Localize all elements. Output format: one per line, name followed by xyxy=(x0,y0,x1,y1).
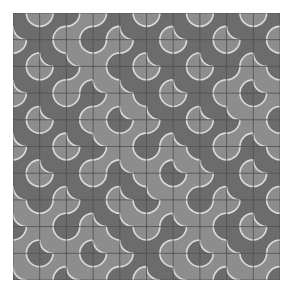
truchet-tile xyxy=(13,173,40,200)
truchet-tile xyxy=(93,173,120,200)
truchet-tile xyxy=(120,147,147,174)
truchet-tile xyxy=(40,66,67,93)
truchet-tile xyxy=(227,173,254,200)
truchet-tile xyxy=(13,147,40,174)
truchet-tile xyxy=(66,93,93,120)
truchet-tile xyxy=(147,227,174,254)
truchet-tile xyxy=(173,227,200,254)
truchet-tile xyxy=(200,120,227,147)
truchet-tile xyxy=(253,253,280,280)
truchet-tile xyxy=(93,147,120,174)
truchet-tile xyxy=(147,253,174,280)
truchet-tile xyxy=(253,227,280,254)
truchet-tile xyxy=(227,147,254,174)
truchet-tile xyxy=(147,147,174,174)
truchet-tile xyxy=(227,200,254,227)
truchet-tile xyxy=(40,40,67,67)
truchet-tile xyxy=(13,40,40,67)
truchet-tile xyxy=(200,227,227,254)
truchet-tile xyxy=(93,93,120,120)
truchet-tile xyxy=(93,227,120,254)
truchet-tile xyxy=(120,253,147,280)
truchet-tile xyxy=(173,66,200,93)
truchet-tile xyxy=(147,173,174,200)
truchet-tile xyxy=(120,200,147,227)
truchet-tile xyxy=(93,66,120,93)
truchet-tile xyxy=(253,66,280,93)
truchet-tile xyxy=(13,120,40,147)
truchet-tile xyxy=(227,40,254,67)
truchet-tile xyxy=(227,93,254,120)
truchet-tile xyxy=(200,173,227,200)
truchet-tile xyxy=(66,120,93,147)
truchet-tile xyxy=(253,120,280,147)
truchet-tile xyxy=(147,120,174,147)
truchet-tile xyxy=(147,93,174,120)
truchet-tile xyxy=(200,93,227,120)
truchet-tile xyxy=(173,200,200,227)
truchet-tile xyxy=(40,93,67,120)
truchet-tile xyxy=(40,253,67,280)
truchet-tile xyxy=(66,13,93,40)
truchet-tile xyxy=(200,40,227,67)
truchet-tile xyxy=(66,147,93,174)
truchet-tile xyxy=(253,147,280,174)
truchet-tile xyxy=(66,173,93,200)
truchet-tile xyxy=(147,66,174,93)
truchet-tile xyxy=(120,93,147,120)
truchet-tile xyxy=(13,200,40,227)
truchet-tile xyxy=(93,40,120,67)
truchet-tile xyxy=(93,13,120,40)
truchet-tile xyxy=(173,120,200,147)
truchet-tile xyxy=(200,200,227,227)
truchet-tile xyxy=(66,40,93,67)
truchet-tile xyxy=(40,200,67,227)
truchet-tile xyxy=(13,253,40,280)
truchet-tile xyxy=(227,13,254,40)
truchet-tile xyxy=(13,13,40,40)
truchet-tile xyxy=(253,93,280,120)
truchet-tile xyxy=(66,227,93,254)
truchet-tile xyxy=(93,200,120,227)
truchet-tile xyxy=(120,40,147,67)
truchet-tile xyxy=(173,93,200,120)
truchet-tile xyxy=(120,227,147,254)
truchet-tile xyxy=(120,173,147,200)
truchet-tile xyxy=(173,40,200,67)
truchet-tile xyxy=(253,173,280,200)
truchet-tile xyxy=(227,227,254,254)
truchet-tile xyxy=(66,253,93,280)
truchet-tile xyxy=(200,13,227,40)
truchet-tile xyxy=(13,93,40,120)
truchet-tile xyxy=(253,13,280,40)
truchet-tile xyxy=(200,66,227,93)
truchet-tile xyxy=(66,66,93,93)
truchet-tile xyxy=(120,66,147,93)
truchet-tile xyxy=(40,227,67,254)
truchet-tile xyxy=(200,253,227,280)
truchet-tile xyxy=(120,120,147,147)
truchet-tile xyxy=(40,173,67,200)
truchet-tile xyxy=(227,66,254,93)
truchet-tile xyxy=(173,147,200,174)
truchet-tile xyxy=(40,147,67,174)
truchet-tile xyxy=(93,253,120,280)
truchet-pattern-board xyxy=(13,13,280,280)
truchet-tile xyxy=(227,253,254,280)
truchet-tile xyxy=(173,13,200,40)
truchet-tile xyxy=(147,40,174,67)
truchet-tile xyxy=(40,120,67,147)
truchet-tile xyxy=(173,173,200,200)
truchet-pattern-svg xyxy=(13,13,280,280)
truchet-tile xyxy=(13,227,40,254)
truchet-tile xyxy=(40,13,67,40)
truchet-tile xyxy=(66,200,93,227)
truchet-tile xyxy=(227,120,254,147)
truchet-tile xyxy=(13,66,40,93)
truchet-tile xyxy=(173,253,200,280)
truchet-tile xyxy=(147,13,174,40)
truchet-tile xyxy=(147,200,174,227)
truchet-tile xyxy=(93,120,120,147)
truchet-tile xyxy=(253,200,280,227)
truchet-tile xyxy=(120,13,147,40)
